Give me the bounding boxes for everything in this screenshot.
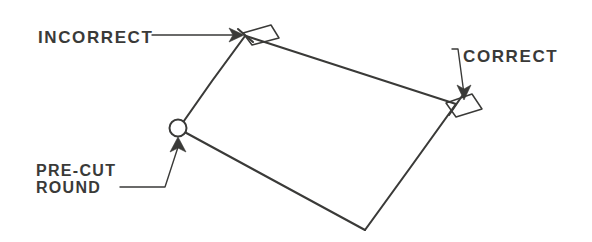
label-precut-line1: PRE-CUT bbox=[36, 162, 116, 179]
label-precut-line2: ROUND bbox=[36, 179, 101, 196]
technical-drawing-canvas: INCORRECT CORRECT PRE-CUT ROUND bbox=[0, 0, 592, 242]
label-incorrect: INCORRECT bbox=[38, 28, 153, 47]
pre-cut-round-corner-circle bbox=[170, 120, 187, 137]
corner-cut-diagram: INCORRECT CORRECT PRE-CUT ROUND bbox=[0, 0, 592, 242]
label-correct: CORRECT bbox=[463, 47, 558, 66]
